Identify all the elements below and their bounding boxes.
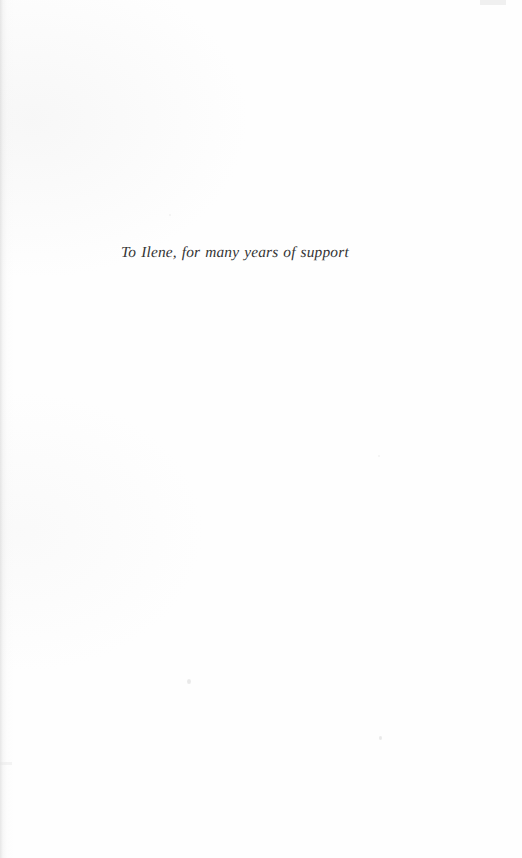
scan-gutter-shading	[0, 0, 14, 858]
scan-speck	[379, 736, 382, 740]
dedication-page: To Ilene, for many years of support	[0, 0, 522, 858]
scan-speck	[0, 762, 12, 765]
scan-edge-artifact	[480, 0, 506, 5]
scan-speck	[378, 455, 380, 457]
paper-tone-overlay	[0, 0, 522, 858]
scan-speck	[169, 214, 171, 216]
scan-speck	[187, 679, 191, 684]
dedication-text: To Ilene, for many years of support	[121, 243, 349, 263]
